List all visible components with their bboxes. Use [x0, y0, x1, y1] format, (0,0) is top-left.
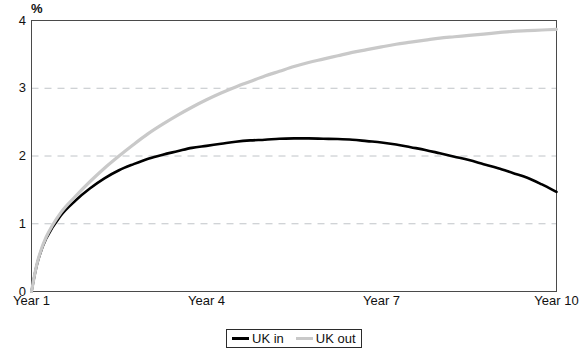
gridlines [32, 88, 557, 224]
legend-label-uk-in: UK in [252, 332, 284, 345]
chart-legend: UK in UK out [226, 329, 362, 348]
line-uk-out [32, 29, 557, 291]
legend-line-icon-uk-in [232, 337, 249, 340]
legend-label-uk-out: UK out [316, 332, 356, 345]
series-lines [32, 29, 557, 291]
legend-item-uk-out: UK out [296, 332, 356, 345]
legend-item-uk-in: UK in [232, 332, 284, 345]
legend-line-icon-uk-out [296, 337, 313, 340]
